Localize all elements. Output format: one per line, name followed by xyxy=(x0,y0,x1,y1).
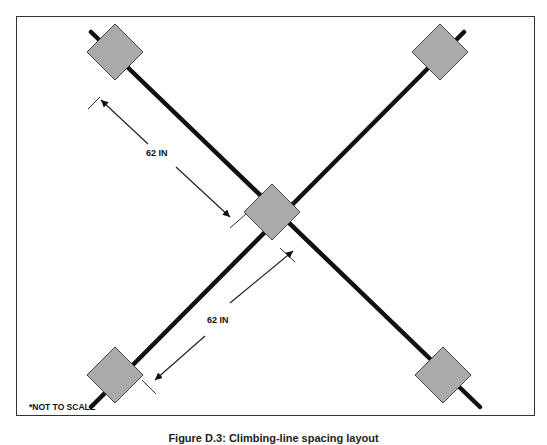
x-diagram xyxy=(0,0,547,445)
figure-caption: Figure D.3: Climbing-line spacing layout xyxy=(0,432,547,444)
node-bottom-left xyxy=(87,347,143,403)
node-center xyxy=(244,184,300,240)
not-to-scale-note: *NOT TO SCALE xyxy=(29,402,95,412)
dimension-label-lower: 62 IN xyxy=(207,315,229,325)
dimension-label-upper: 62 IN xyxy=(146,148,168,158)
node-top-right xyxy=(412,24,468,80)
